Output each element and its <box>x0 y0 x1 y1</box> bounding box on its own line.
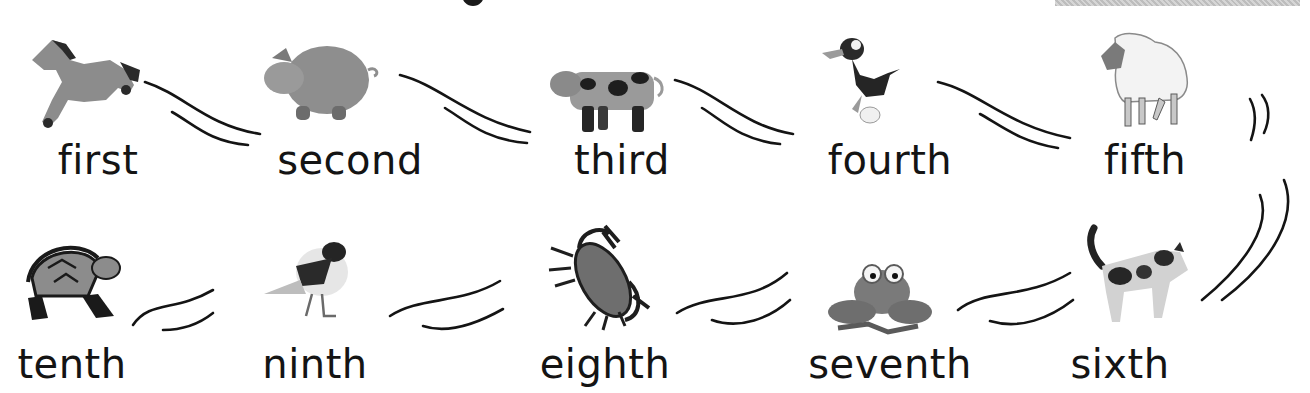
label-fourth: fourth <box>828 140 952 180</box>
animal-turtle <box>18 238 133 337</box>
turtle-icon <box>18 238 133 333</box>
frog-icon <box>828 262 933 337</box>
duck-icon <box>818 35 913 130</box>
horse-icon <box>22 30 147 130</box>
label-second: second <box>277 140 423 180</box>
cat-icon <box>1080 222 1195 327</box>
crab-icon <box>545 222 655 332</box>
animal-cat <box>1080 222 1195 331</box>
label-ninth: ninth <box>262 344 367 384</box>
label-sixth: sixth <box>1070 344 1169 384</box>
bird-icon <box>262 238 357 320</box>
label-fifth: fifth <box>1104 140 1186 180</box>
label-seventh: seventh <box>808 344 972 384</box>
label-first: first <box>58 140 139 180</box>
animal-pig <box>262 40 382 129</box>
animal-crab <box>545 222 655 336</box>
label-tenth: tenth <box>17 344 126 384</box>
label-eighth: eighth <box>540 344 671 384</box>
animal-frog <box>828 262 933 341</box>
cow-icon <box>548 62 668 137</box>
animal-duck <box>818 35 913 134</box>
sheep-icon <box>1095 28 1195 128</box>
animal-sheep <box>1095 28 1195 132</box>
pig-icon <box>262 40 382 125</box>
animal-bird <box>262 238 357 324</box>
label-third: third <box>574 140 670 180</box>
animal-cow <box>548 62 668 141</box>
animal-horse <box>22 30 147 134</box>
